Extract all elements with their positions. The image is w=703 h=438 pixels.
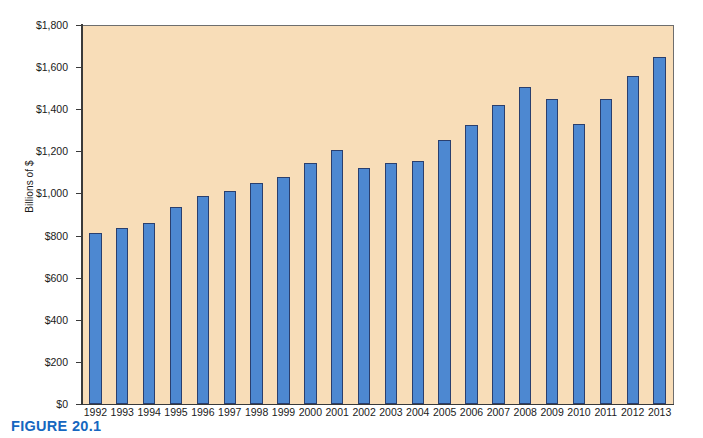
y-axis-tick-label: $0 (56, 398, 68, 410)
x-axis-tick-label: 1997 (218, 406, 241, 418)
x-axis-tick-label: 1996 (191, 406, 214, 418)
x-axis-tick-label: 2000 (299, 406, 322, 418)
y-axis-tick-label: $600 (45, 272, 68, 284)
figure-container: Billions of $ $0$200$400$600$800$1,000$1… (0, 0, 703, 438)
bar (519, 87, 531, 404)
bar (170, 207, 182, 404)
x-axis-tick-label: 1995 (164, 406, 187, 418)
x-axis-tick-label: 2008 (514, 406, 537, 418)
y-axis-tick-label: $200 (45, 356, 68, 368)
y-axis-tick-label: $1,800 (36, 19, 68, 31)
y-axis-tick-label: $1,600 (36, 61, 68, 73)
y-axis-tick-label: $400 (45, 314, 68, 326)
bar (116, 228, 128, 404)
bar (465, 125, 477, 404)
y-axis-tick-label: $1,400 (36, 103, 68, 115)
bar (438, 140, 450, 404)
x-axis-tick-label: 1999 (272, 406, 295, 418)
bar (412, 161, 424, 404)
bar (197, 196, 209, 404)
y-axis-tick-labels: $0$200$400$600$800$1,000$1,200$1,400$1,6… (0, 0, 76, 438)
x-axis-tick-label: 2002 (352, 406, 375, 418)
x-axis-tick-label: 1994 (137, 406, 160, 418)
bar (143, 223, 155, 404)
bar-series (82, 25, 673, 404)
x-axis-tick-label: 2009 (540, 406, 563, 418)
bar (89, 233, 101, 404)
x-axis-tick-labels: 1992199319941995199619971998199920002001… (82, 406, 673, 422)
x-axis-tick-label: 2003 (379, 406, 402, 418)
bar (546, 99, 558, 404)
x-axis-tick-label: 2005 (433, 406, 456, 418)
x-axis-tick-label: 2012 (621, 406, 644, 418)
bar (653, 57, 665, 404)
x-axis-tick-label: 2007 (487, 406, 510, 418)
x-axis-tick-label: 2011 (595, 406, 618, 418)
x-axis-tick-label: 2004 (406, 406, 429, 418)
x-axis-tick-label: 2006 (460, 406, 483, 418)
y-axis-tick-label: $1,200 (36, 145, 68, 157)
bar (277, 177, 289, 404)
bar (224, 191, 236, 404)
x-axis-tick-label: 1998 (245, 406, 268, 418)
bar (331, 150, 343, 404)
y-axis-tick-label: $1,000 (36, 187, 68, 199)
x-axis-tick-label: 1993 (111, 406, 134, 418)
y-axis-tick-label: $800 (45, 230, 68, 242)
bar (250, 183, 262, 404)
x-axis-tick-label: 2013 (648, 406, 671, 418)
bar (573, 124, 585, 404)
x-axis-tick-label: 2001 (326, 406, 349, 418)
x-axis-tick-label: 1992 (84, 406, 107, 418)
bar (304, 163, 316, 404)
bar (358, 168, 370, 404)
figure-caption: FIGURE 20.1 (11, 418, 101, 434)
bar (627, 76, 639, 404)
bar (492, 105, 504, 404)
x-axis-tick-label: 2010 (567, 406, 590, 418)
bar (385, 163, 397, 404)
bar (600, 99, 612, 404)
